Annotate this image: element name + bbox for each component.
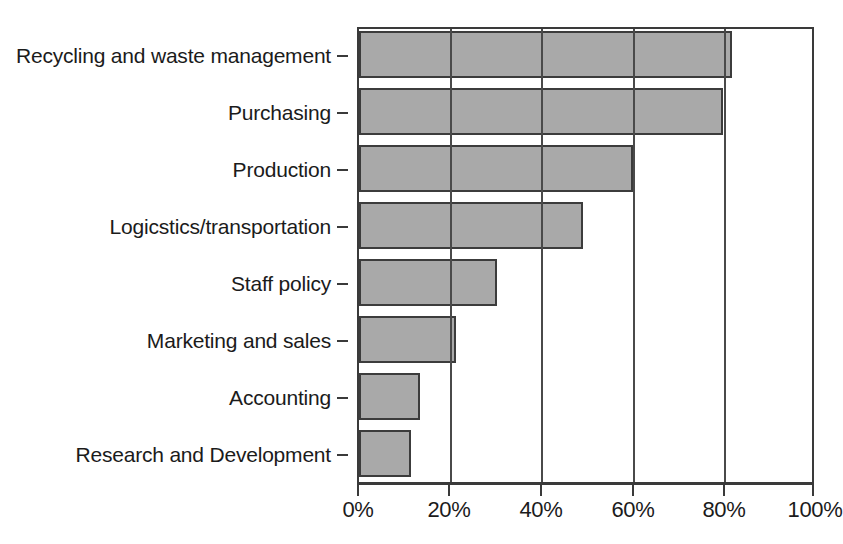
category-row: Marketing and sales [0,316,348,365]
gridline-60 [633,29,635,482]
category-row: Staff policy [0,259,348,308]
bar [359,145,633,192]
category-label: Recycling and waste management [16,45,331,66]
category-label: Marketing and sales [147,330,331,351]
y-axis-tick-icon [337,397,348,399]
category-label: Accounting [229,387,331,408]
bars-layer [359,29,812,482]
y-axis-category-labels: Recycling and waste management Purchasin… [0,27,348,484]
y-axis-tick-icon [337,340,348,342]
category-row: Accounting [0,373,348,422]
plot-area [357,27,814,484]
x-axis-tick-icon [723,485,725,496]
x-tick-label: 0% [342,498,373,522]
horizontal-bar-chart: Recycling and waste management Purchasin… [0,0,843,544]
y-axis-tick-icon [337,112,348,114]
category-row: Logicstics/transportation [0,202,348,251]
x-axis-tick-icon [812,485,814,496]
x-tick-label: 60% [611,498,654,522]
category-label: Purchasing [228,102,331,123]
bar [359,316,456,363]
y-axis-tick-icon [337,226,348,228]
x-tick-label: 20% [427,498,470,522]
category-row: Recycling and waste management [0,31,348,80]
y-axis-tick-icon [337,283,348,285]
category-row: Research and Development [0,430,348,479]
gridline-40 [541,29,543,482]
x-axis-line [357,483,814,488]
x-axis-tick-icon [540,485,542,496]
gridline-80 [724,29,726,482]
category-row: Purchasing [0,88,348,137]
y-axis-tick-icon [337,169,348,171]
category-row: Production [0,145,348,194]
x-axis-tick-icon [632,485,634,496]
x-axis-tick-icon [448,485,450,496]
x-tick-label: 80% [702,498,745,522]
y-axis-tick-icon [337,55,348,57]
x-axis-tick-labels: 0% 20% 40% 60% 80% 100% [357,498,843,532]
bar [359,202,583,249]
bar [359,31,732,78]
category-label: Staff policy [231,273,331,294]
bar [359,430,411,477]
bar [359,259,497,306]
category-label: Research and Development [75,444,331,465]
x-axis-tick-icon [357,485,359,496]
x-tick-label: 40% [519,498,562,522]
x-tick-label: 100% [787,498,842,522]
gridline-20 [450,29,452,482]
category-label: Logicstics/transportation [110,216,331,237]
y-axis-tick-icon [337,454,348,456]
bar [359,373,420,420]
category-label: Production [233,159,331,180]
